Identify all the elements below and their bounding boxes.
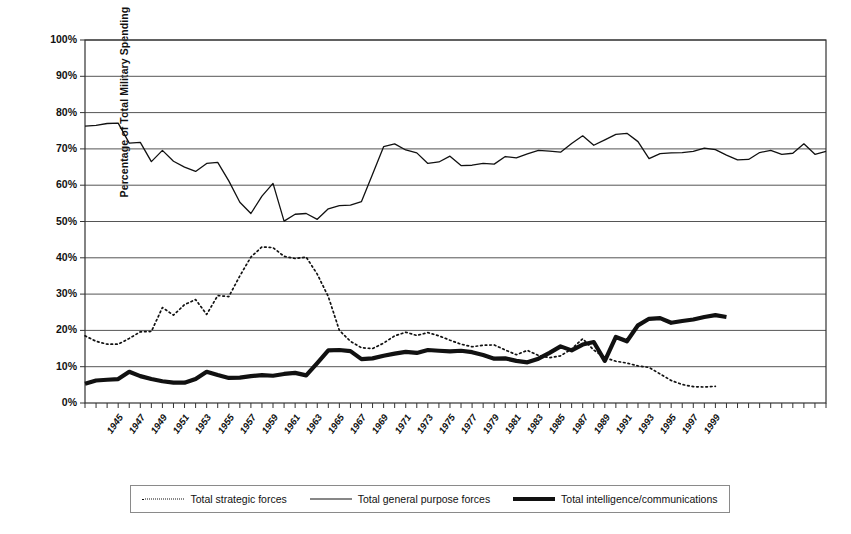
legend-swatch-thick-line-icon <box>513 494 555 504</box>
legend-item[interactable]: Total intelligence/communications <box>513 493 717 505</box>
legend-label: Total strategic forces <box>190 493 286 505</box>
legend-swatch-thin-line-icon <box>310 494 352 504</box>
chart-legend: Total strategic forcesTotal general purp… <box>130 485 730 513</box>
legend-item[interactable]: Total general purpose forces <box>310 493 491 505</box>
legend-label: Total general purpose forces <box>358 493 491 505</box>
series-line-3 <box>85 315 726 384</box>
chart-container: Percentage of Total Military Spending 0%… <box>0 0 851 534</box>
legend-item[interactable]: Total strategic forces <box>142 493 286 505</box>
legend-swatch-dotted-line-icon <box>142 494 184 504</box>
plot-area <box>0 0 851 534</box>
series-line-1 <box>85 247 715 387</box>
legend-label: Total intelligence/communications <box>561 493 717 505</box>
series-line-2 <box>85 123 826 221</box>
